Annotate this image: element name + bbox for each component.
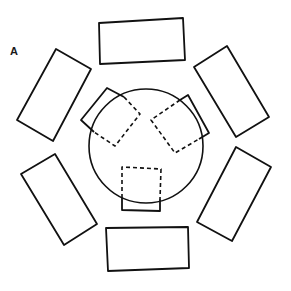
outer-rect-bottom bbox=[106, 227, 189, 271]
round-table bbox=[89, 89, 203, 203]
panel-label: A bbox=[10, 45, 18, 57]
outer-rect-upper-left bbox=[17, 49, 91, 141]
outer-rect-top bbox=[99, 18, 185, 64]
outer-rect-upper-right bbox=[194, 46, 269, 137]
seating-diagram bbox=[0, 0, 291, 291]
inner-square-bottom bbox=[122, 167, 161, 211]
outer-rect-lower-left bbox=[21, 154, 97, 245]
inner-square-upper-right bbox=[151, 95, 209, 153]
diagram-canvas: A bbox=[0, 0, 291, 291]
outer-rect-lower-right bbox=[197, 147, 271, 241]
